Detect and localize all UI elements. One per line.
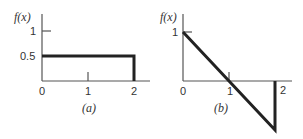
chart-b: f(x) 1 0 1 2 (b) <box>160 10 292 130</box>
chart-a-xlabel-0: 0 <box>39 85 45 97</box>
chart-a-xlabel-2: 2 <box>131 85 137 97</box>
chart-b-xlabel-0: 0 <box>180 85 186 97</box>
chart-b-ylabel-1: 1 <box>172 26 178 38</box>
chart-a-ylabel-05: 0.5 <box>20 50 35 62</box>
chart-b-xlabel-2: 2 <box>280 84 286 96</box>
chart-b-xlabel-1: 1 <box>227 85 233 97</box>
chart-a-ylabel-1: 1 <box>30 25 36 37</box>
figure: f(x) 1 0.5 0 1 2 (a) f(x) 1 0 1 2 (b) <box>0 0 303 139</box>
chart-a: f(x) 1 0.5 0 1 2 (a) <box>14 10 150 115</box>
chart-a-caption: (a) <box>82 101 96 115</box>
chart-b-caption: (b) <box>214 101 228 115</box>
chart-b-ylabel: f(x) <box>160 10 177 24</box>
chart-a-ylabel: f(x) <box>14 10 31 24</box>
chart-a-xlabel-1: 1 <box>85 85 91 97</box>
